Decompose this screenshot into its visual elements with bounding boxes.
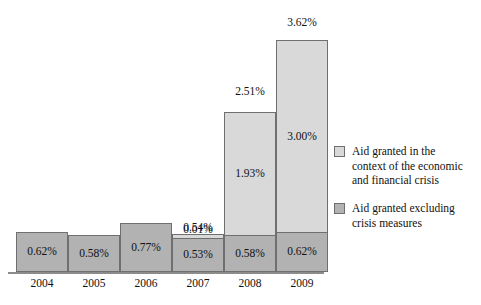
bar-stack-2004: 0.62% [16,233,68,272]
bar-stack-2005: 0.58% [68,236,120,272]
plot-area: 0.62% 2004 0.58% 2005 0.77% 2006 [0,0,330,305]
x-tick-2006: 2006 [120,277,172,289]
bar-total-label-2008: 2.51% [235,86,265,98]
bar-group-2005: 0.58% 2005 [68,0,120,305]
legend-label-base-line2: crisis measures [352,217,422,229]
bar-group-2008: 1.93% 0.58% 2.51% 2008 [224,0,276,305]
legend-label-base-line1: Aid granted excluding [352,202,455,214]
bar-segment-base-label-2007: 0.53% [183,249,213,261]
bar-segment-base-2007[interactable]: 0.53% [172,238,224,272]
legend-swatch-base-icon [334,203,345,214]
bar-segment-crisis-2008[interactable]: 1.93% [224,112,276,236]
bar-segment-base-label-2008: 0.58% [235,248,265,260]
x-tick-2005: 2005 [68,277,120,289]
bar-segment-base-2008[interactable]: 0.58% [224,235,276,272]
legend-label-crisis-line1: Aid granted in the [352,145,435,157]
legend-label-crisis-line3: and financial crisis [352,174,439,186]
legend-label-base: Aid granted excluding crisis measures [352,201,455,230]
legend-label-crisis: Aid granted in the context of the econom… [352,144,463,188]
bar-total-label-2009: 3.62% [287,17,317,29]
legend-label-crisis-line2: context of the economic [352,160,463,172]
bar-stack-2008: 1.93% 0.58% [224,112,276,272]
bar-segment-base-2009[interactable]: 0.62% [276,232,328,272]
bar-segment-base-2004[interactable]: 0.62% [16,232,68,272]
bar-segment-base-2005[interactable]: 0.58% [68,235,120,272]
legend-swatch-crisis-icon [334,146,345,157]
stacked-bar-chart: 0.62% 2004 0.58% 2005 0.77% 2006 [0,0,481,305]
bar-segment-crisis-label-2008: 1.93% [235,168,265,180]
bar-segment-base-label-2004: 0.62% [27,246,57,258]
x-tick-2008: 2008 [224,277,276,289]
bar-segment-base-label-2006: 0.77% [131,242,161,254]
bar-stack-2009: 3.00% 0.62% [276,40,328,272]
bar-segment-crisis-label-2009: 3.00% [287,131,317,143]
bar-total-label-2007: 0.54% [183,222,213,234]
bar-stack-2006: 0.77% [120,224,172,272]
bar-group-2009: 3.00% 0.62% 3.62% 2009 [276,0,328,305]
legend-item-base[interactable]: Aid granted excluding crisis measures [334,201,481,230]
bar-group-2004: 0.62% 2004 [16,0,68,305]
bar-stack-2007: 0.01% 0.53% [172,234,224,272]
bar-segment-base-2006[interactable]: 0.77% [120,223,172,272]
x-tick-2004: 2004 [16,277,68,289]
bar-segment-base-label-2009: 0.62% [287,246,317,258]
x-tick-2009: 2009 [276,277,328,289]
x-tick-2007: 2007 [172,277,224,289]
bar-segment-crisis-2009[interactable]: 3.00% [276,40,328,233]
bar-group-2006: 0.77% 2006 [120,0,172,305]
chart-legend: Aid granted in the context of the econom… [334,144,481,244]
bar-segment-base-label-2005: 0.58% [79,248,109,260]
legend-item-crisis[interactable]: Aid granted in the context of the econom… [334,144,481,188]
bar-group-2007: 0.01% 0.53% 0.54% 2007 [172,0,224,305]
